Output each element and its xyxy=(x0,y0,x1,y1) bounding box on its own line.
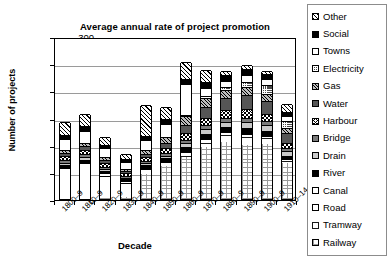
legend-label: Harbour xyxy=(323,116,357,126)
legend-swatch-icon xyxy=(312,100,319,107)
legend-item-railway[interactable]: Railway xyxy=(312,234,386,251)
stacked-bar[interactable] xyxy=(281,105,293,200)
bar-slot[interactable] xyxy=(261,37,273,200)
bar-segment xyxy=(161,119,171,124)
legend-item-gas[interactable]: Gas xyxy=(312,78,386,95)
bar-slot[interactable] xyxy=(200,37,212,200)
bar-segment xyxy=(221,90,231,99)
stacked-bar[interactable] xyxy=(160,108,172,200)
bar-segment xyxy=(121,176,131,178)
bar-slot[interactable] xyxy=(79,37,91,200)
legend-item-other[interactable]: Other xyxy=(312,8,386,25)
bar-segment xyxy=(221,87,231,90)
bar-segment xyxy=(221,75,231,81)
stacked-bar[interactable] xyxy=(261,72,273,200)
bar-segment xyxy=(282,159,292,161)
bar-segment xyxy=(100,167,110,169)
bar-segment xyxy=(282,121,292,129)
stacked-bar[interactable] xyxy=(200,71,212,200)
stacked-bar[interactable] xyxy=(180,63,192,200)
bar-segment xyxy=(282,148,292,151)
bar-segment xyxy=(161,148,171,153)
bar-segment xyxy=(282,143,292,148)
legend-item-road[interactable]: Road xyxy=(312,199,386,216)
bar-slot[interactable] xyxy=(140,37,152,200)
legend-label: Railway xyxy=(323,238,356,248)
bar-segment xyxy=(80,143,90,147)
legend-item-social[interactable]: Social xyxy=(312,25,386,42)
bar-segment xyxy=(181,116,191,125)
legend-item-water[interactable]: Water xyxy=(312,95,386,112)
bar-segment xyxy=(121,181,131,183)
stacked-bar[interactable] xyxy=(241,66,253,200)
bar-segment xyxy=(121,169,131,172)
legend-label: Gas xyxy=(323,81,340,91)
bar-segment xyxy=(60,171,70,199)
bar-segment xyxy=(60,153,70,156)
bar-segment xyxy=(221,127,231,131)
bar-segment xyxy=(141,169,151,174)
bar-slot[interactable] xyxy=(99,37,111,200)
bar-segment xyxy=(141,140,151,150)
legend-item-harbour[interactable]: Harbour xyxy=(312,112,386,129)
bar-segment xyxy=(242,118,252,122)
legend-item-tramway[interactable]: Tramway xyxy=(312,217,386,234)
bar-segment xyxy=(60,139,70,150)
bar-segment xyxy=(161,162,171,166)
legend-item-towns[interactable]: Towns xyxy=(312,43,386,60)
bar-slot[interactable] xyxy=(281,37,293,200)
bar-segment xyxy=(100,148,110,157)
plot-area xyxy=(54,38,296,201)
stacked-bar[interactable] xyxy=(79,115,91,200)
legend-item-electricity[interactable]: Electricity xyxy=(312,60,386,77)
bar-segment xyxy=(201,82,211,88)
bar-segment xyxy=(282,133,292,143)
bar-segment xyxy=(201,70,211,82)
bar-slot[interactable] xyxy=(180,37,192,200)
bar-segment xyxy=(141,168,151,169)
bar-slot[interactable] xyxy=(241,37,253,200)
bar-segment xyxy=(141,154,151,157)
legend-swatch-icon xyxy=(312,222,319,229)
stacked-bar[interactable] xyxy=(140,106,152,200)
bar-segment xyxy=(80,126,90,131)
bar-segment xyxy=(221,71,231,75)
bar-segment xyxy=(262,125,272,131)
bar-segment xyxy=(201,96,211,98)
bar-segment xyxy=(121,162,131,169)
bar-segment xyxy=(100,171,110,173)
bar-segment xyxy=(201,143,211,147)
stacked-bar[interactable] xyxy=(220,72,232,200)
bar-slot[interactable] xyxy=(220,37,232,200)
bar-segment xyxy=(201,129,211,134)
bar-segment xyxy=(181,84,191,114)
bar-segment xyxy=(80,146,90,149)
bar-slot[interactable] xyxy=(160,37,172,200)
legend-item-bridge[interactable]: Bridge xyxy=(312,130,386,147)
bar-segment xyxy=(262,74,272,79)
legend-item-canal[interactable]: Canal xyxy=(312,182,386,199)
bar-segment xyxy=(100,137,110,145)
stacked-bar[interactable] xyxy=(59,123,71,200)
bar-segment xyxy=(221,135,231,142)
bar-segment xyxy=(221,131,231,132)
bar-segment xyxy=(161,161,171,162)
bar-segment xyxy=(282,112,292,116)
bar-segment xyxy=(282,151,292,155)
legend-item-drain[interactable]: Drain xyxy=(312,147,386,164)
bar-slot[interactable] xyxy=(120,37,132,200)
bar-segment xyxy=(201,107,211,118)
bar-segment xyxy=(100,173,110,176)
bar-segment xyxy=(262,135,272,136)
legend-label: Drain xyxy=(323,151,346,161)
x-tick-mark xyxy=(54,201,55,205)
legend-item-river[interactable]: River xyxy=(312,165,386,182)
bar-slot[interactable] xyxy=(59,37,71,200)
bar-segment xyxy=(242,87,252,95)
bar-segment xyxy=(262,131,272,135)
bar-segment xyxy=(181,143,191,147)
bar-segment xyxy=(60,156,70,160)
bar-segment xyxy=(161,107,171,119)
bar-segment xyxy=(181,133,191,140)
bar-segment xyxy=(242,134,252,137)
